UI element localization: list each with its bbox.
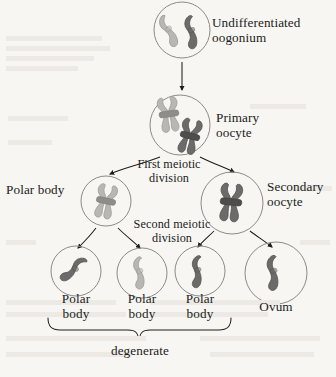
label-polar-body-b: Polar body: [112, 292, 172, 322]
label-oogonium: Undifferentiated oogonium: [212, 16, 336, 46]
chromosome-dark: [186, 254, 208, 288]
oogenesis-diagram: Undifferentiated oogonium Primary oocyte…: [0, 0, 336, 377]
chromosome-light: [93, 183, 119, 220]
chromosome-dark: [56, 256, 90, 283]
chromosome-light: [158, 13, 178, 48]
label-polar-body-c: Polar body: [170, 292, 230, 322]
cell-ovum: [245, 242, 307, 304]
label-primary-oocyte: Primary oocyte: [216, 111, 326, 141]
label-degenerate: degenerate: [92, 344, 188, 359]
cell-polar-body-a: [51, 246, 101, 296]
chromosome-dark: [262, 254, 284, 291]
chromosome-dark: [176, 117, 204, 156]
cell-primary-oocyte: [150, 95, 210, 156]
label-secondary-oocyte: Secondary oocyte: [267, 180, 336, 210]
cell-oogonium: [154, 2, 210, 58]
label-polar-body-a: Polar body: [46, 292, 106, 322]
chromosome-dark: [182, 15, 199, 49]
cell-membrane: [154, 2, 210, 58]
label-ovum: Ovum: [246, 300, 306, 315]
arrow-secondary-to-ovum: [250, 231, 272, 247]
chromosome-light: [156, 96, 181, 133]
label-polar-body-first: Polar body: [6, 183, 80, 198]
chromosome-dark: [218, 183, 244, 223]
arrow-polarbody-to-a: [78, 228, 96, 248]
cell-polar-body-first: [81, 176, 131, 226]
cell-polar-body-c: [175, 246, 225, 296]
label-second-meiotic-division: Second meiotic division: [130, 218, 214, 245]
label-first-meiotic-division: First meiotic division: [131, 158, 207, 185]
centromere: [220, 198, 242, 207]
chromosome-light: [130, 256, 149, 290]
